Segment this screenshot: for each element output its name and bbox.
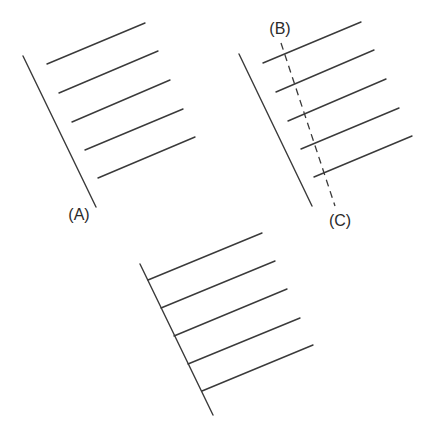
- baseline-line: [23, 56, 96, 207]
- baseline-line: [140, 264, 213, 415]
- hatch-line: [59, 51, 158, 93]
- label-b: (B): [269, 21, 290, 37]
- baseline-line: [239, 54, 312, 206]
- hatch-line: [314, 136, 412, 177]
- hatch-line: [98, 137, 195, 178]
- hatch-line: [85, 109, 183, 150]
- hatch-line: [288, 79, 386, 121]
- hatch-line: [301, 108, 399, 149]
- figure-a: [23, 23, 195, 207]
- label-c: (C): [329, 213, 351, 229]
- label-a: (A): [68, 207, 89, 223]
- figure-bc: [239, 22, 412, 206]
- diagram-drawing: [0, 0, 436, 430]
- hatch-line: [72, 80, 170, 122]
- diagram-canvas: (A) (B) (C): [0, 0, 436, 430]
- hatch-line: [47, 23, 145, 64]
- figure-bottom: [140, 233, 313, 415]
- dashed-line-b-c: [281, 43, 335, 206]
